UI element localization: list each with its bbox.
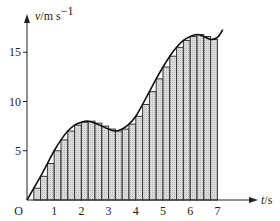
bar xyxy=(81,122,88,200)
y-axis-arrowhead-icon xyxy=(24,14,30,23)
y-tick-label: 15 xyxy=(9,45,21,59)
bar xyxy=(170,56,177,200)
bar xyxy=(54,151,61,200)
x-tick-label: 1 xyxy=(51,204,57,218)
y-axis-label-unit: /m s xyxy=(40,9,61,23)
x-tick-label: 5 xyxy=(160,204,166,218)
bar xyxy=(75,125,82,200)
bar xyxy=(115,131,122,200)
bar xyxy=(122,129,129,200)
bar xyxy=(95,123,102,200)
bar xyxy=(47,164,54,200)
y-tick-label: 5 xyxy=(15,144,21,158)
bar xyxy=(143,104,150,200)
bar xyxy=(88,121,95,200)
bar xyxy=(156,79,163,200)
bar xyxy=(177,47,184,200)
bar xyxy=(68,131,75,200)
bar xyxy=(102,126,109,200)
bar xyxy=(211,39,218,200)
x-tick-label: 3 xyxy=(106,204,112,218)
x-axis-label-unit: /s xyxy=(264,193,272,207)
y-tick-label: 10 xyxy=(9,95,21,109)
bar xyxy=(136,116,143,200)
y-axis-label: v/m s−1 xyxy=(35,4,73,23)
velocity-time-chart: 123456751015 O v/m s−1 t/s xyxy=(0,0,280,221)
x-tick-label: 2 xyxy=(78,204,84,218)
x-tick-label: 7 xyxy=(214,204,220,218)
bar xyxy=(197,35,204,200)
bar xyxy=(61,140,68,200)
x-axis-arrowhead-icon xyxy=(249,197,258,203)
bars-group xyxy=(34,35,218,200)
bar xyxy=(129,124,136,200)
bar xyxy=(204,36,211,200)
origin-label: O xyxy=(14,204,23,218)
y-axis-label-exponent: −1 xyxy=(61,4,74,18)
bar xyxy=(149,92,156,200)
bar xyxy=(34,188,41,200)
bar xyxy=(190,36,197,200)
bar xyxy=(109,129,116,200)
bar xyxy=(41,176,48,200)
x-axis-label: t/s xyxy=(261,193,273,207)
x-tick-label: 4 xyxy=(133,204,139,218)
bar xyxy=(163,67,170,200)
bar xyxy=(183,40,190,200)
x-tick-label: 6 xyxy=(187,204,193,218)
